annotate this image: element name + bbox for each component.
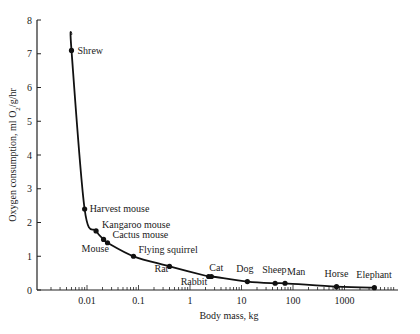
data-point (372, 285, 377, 290)
point-label: Cat (209, 262, 223, 273)
y-tick-label: 2 (27, 217, 32, 228)
data-point (334, 284, 339, 289)
x-tick-label: 10 (237, 295, 247, 306)
y-tick-label: 4 (27, 150, 32, 161)
x-tick-label: 100 (286, 295, 301, 306)
point-label: Flying squirrel (139, 244, 198, 255)
metabolic-curve (71, 32, 375, 288)
chart: 0123456780.010.11101001000 ShrewHarvest … (0, 0, 420, 334)
data-point (209, 274, 214, 279)
x-tick-label: 0.01 (78, 295, 96, 306)
y-tick-label: 5 (27, 116, 32, 127)
point-label: Mouse (82, 243, 110, 254)
point-label: Man (287, 266, 305, 277)
y-tick-label: 6 (27, 82, 32, 93)
x-axis-title: Body mass, kg (199, 310, 258, 321)
point-label: Elephant (356, 269, 392, 280)
point-label: Horse (325, 268, 349, 279)
point-label: Shrew (77, 45, 103, 56)
data-point (282, 281, 287, 286)
point-label: Dog (236, 263, 253, 274)
data-point (131, 254, 136, 259)
y-tick-label: 3 (27, 183, 32, 194)
x-tick-label: 0.1 (132, 295, 145, 306)
point-label: Cactus mouse (112, 229, 168, 240)
data-curve (71, 32, 375, 288)
data-point (245, 279, 250, 284)
data-point (93, 228, 98, 233)
point-label: Rat (155, 263, 169, 274)
data-point (69, 48, 74, 53)
data-point (273, 281, 278, 286)
data-point (105, 240, 110, 245)
point-label: Harvest mouse (90, 203, 150, 214)
x-tick-label: 1 (188, 295, 193, 306)
y-tick-label: 1 (27, 251, 32, 262)
point-label: Rabbit (181, 276, 208, 287)
data-points: ShrewHarvest mouseKangaroo mouseMouseCac… (69, 45, 392, 290)
y-tick-label: 7 (27, 48, 32, 59)
y-tick-label: 0 (27, 285, 32, 296)
y-axis-title: Oxygen consumption, ml O2/g/hr (7, 88, 22, 222)
x-tick-label: 1000 (335, 295, 355, 306)
y-tick-label: 8 (27, 15, 32, 26)
data-point (82, 206, 87, 211)
point-label: Sheep (262, 264, 286, 275)
